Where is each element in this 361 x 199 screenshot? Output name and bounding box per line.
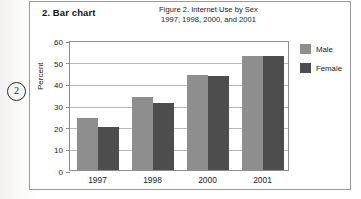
figure-panel: 2. Bar chart Figure 2. Internet Use by S… [29,1,351,190]
y-axis-tick [66,128,70,129]
margin-annotation-number: 2 [7,82,26,101]
bar-male-1998 [132,97,153,170]
bar-male-2000 [187,75,208,170]
bar-group: 1997 [77,42,119,170]
plot-area: 0102030405060 1997199820002001 [69,41,289,171]
legend-swatch-female [300,63,311,73]
chart-legend: MaleFemale [300,44,342,82]
x-axis-tick-label: 2001 [242,175,284,185]
bar-female-1997 [98,127,119,170]
legend-swatch-male [300,44,311,54]
bar-group: 2000 [187,42,229,170]
figure-caption-line-1: Figure 2. Internet Use by Sex [159,5,258,14]
y-axis-title: Percent [36,62,45,90]
bar-female-1998 [153,103,174,170]
y-axis-tick [66,107,70,108]
bar-group: 1998 [132,42,174,170]
y-axis-tick-label: 10 [54,146,63,155]
y-axis-tick [66,42,70,43]
y-axis-tick-label: 30 [54,103,63,112]
y-axis-tick [66,63,70,64]
scanned-page: 2 2. Bar chart Figure 2. Internet Use by… [0,0,361,199]
section-title: 2. Bar chart [42,7,95,18]
x-axis-tick-label: 1998 [132,175,174,185]
figure-caption: Figure 2. Internet Use by Sex 1997, 1998… [126,5,291,25]
bar-group: 2001 [242,42,284,170]
y-axis-tick [66,150,70,151]
y-axis-tick-label: 0 [59,168,63,177]
legend-item-female: Female [300,63,342,73]
y-axis-tick-label: 20 [54,124,63,133]
bar-female-2000 [208,76,229,170]
bar-male-2001 [242,56,263,170]
figure-caption-line-2: 1997, 1998, 2000, and 2001 [126,15,291,25]
legend-item-male: Male [300,44,342,54]
y-axis-tick-label: 40 [54,81,63,90]
x-axis-tick-label: 1997 [77,175,119,185]
bar-male-1997 [77,118,98,170]
y-axis-tick-label: 50 [54,59,63,68]
y-axis-tick [66,172,70,173]
x-axis-tick-label: 2000 [187,175,229,185]
legend-label: Female [316,64,342,73]
bar-female-2001 [263,56,284,170]
y-axis-tick-label: 60 [54,38,63,47]
legend-label: Male [316,45,333,54]
y-axis-tick [66,85,70,86]
